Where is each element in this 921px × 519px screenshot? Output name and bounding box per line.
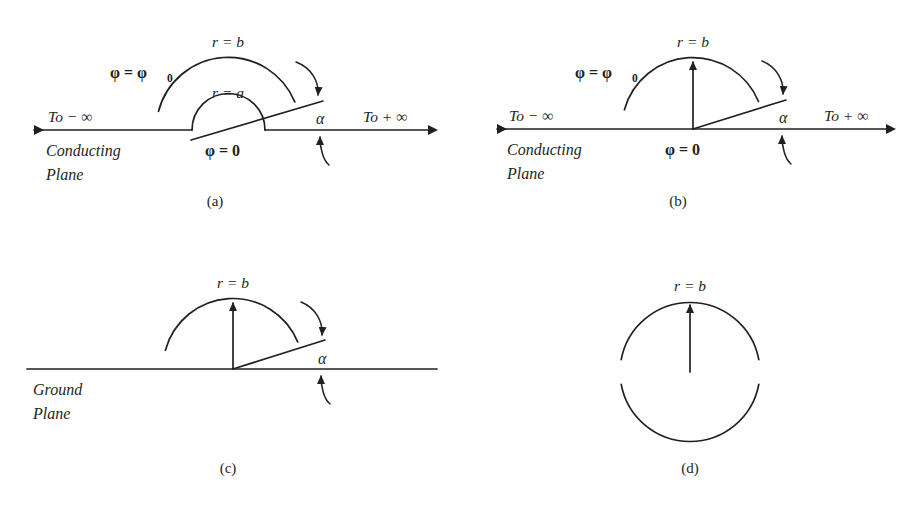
- panel-c-angled-radius: [233, 340, 325, 369]
- panel-b-label-potential-bottom: φ = 0: [665, 141, 700, 159]
- panel-b-caption: (b): [669, 193, 687, 210]
- panel-c-rotation-arrow-lower: [321, 376, 330, 404]
- panel-a-rotation-arrow-upper: [296, 62, 318, 95]
- panel-b-label-potential-top-main: φ = φ: [575, 64, 612, 82]
- panel-a-label-plane-line2: Plane: [45, 166, 83, 183]
- panel-b-rotation-arrow-lower: [782, 136, 791, 164]
- panel-c-caption: (c): [220, 460, 237, 477]
- panel-b-label-left-infinity: To − ∞: [509, 107, 553, 124]
- panel-a-label-angle: α: [316, 110, 325, 127]
- panel-b-rotation-arrow-upper: [762, 61, 783, 94]
- panel-a-label-inner-radius: r = a: [212, 84, 244, 101]
- panel-b-label-outer-radius: r = b: [677, 33, 709, 50]
- panel-b-label-angle: α: [779, 109, 788, 126]
- panel-b-label-plane-line2: Plane: [506, 165, 544, 182]
- panel-a-label-outer-radius: r = b: [212, 33, 244, 50]
- panel-d-lower-arc: [621, 384, 759, 441]
- panel-d-label-outer-radius: r = b: [674, 277, 706, 294]
- panel-b-angled-radius: [693, 100, 786, 129]
- panel-b-label-plane-line1: Conducting: [507, 141, 582, 159]
- panel-d: r = b (d): [621, 277, 759, 477]
- panel-a-label-plane-line1: Conducting: [46, 142, 121, 160]
- figure-svg: r = b r = a φ = φ 0 φ = 0 α To − ∞ To + …: [0, 0, 921, 519]
- panel-a-rotation-arrow-lower: [320, 137, 329, 165]
- panel-a-label-potential-top-subscript: 0: [167, 72, 173, 84]
- panel-a-label-potential-top: φ = φ 0: [110, 64, 173, 84]
- panel-c-label-plane-line1: Ground: [33, 381, 83, 398]
- panel-b-label-potential-top: φ = φ 0: [575, 64, 638, 84]
- panel-a-caption: (a): [207, 193, 224, 210]
- panel-c-label-angle: α: [318, 350, 327, 367]
- panel-c-outer-arc: [165, 299, 297, 351]
- panel-c: r = b α Ground Plane (c): [27, 274, 437, 477]
- figure-root: r = b r = a φ = φ 0 φ = 0 α To − ∞ To + …: [0, 0, 921, 519]
- panel-a-label-potential-bottom: φ = 0: [205, 142, 240, 160]
- panel-d-caption: (d): [681, 460, 699, 477]
- panel-b: r = b φ = φ 0 φ = 0 α To − ∞ To + ∞ Cond…: [497, 33, 886, 210]
- panel-b-outer-arc: [624, 58, 758, 110]
- panel-a-label-left-infinity: To − ∞: [48, 108, 92, 125]
- panel-c-label-plane-line2: Plane: [32, 405, 70, 422]
- panel-b-label-right-infinity: To + ∞: [824, 107, 868, 124]
- panel-c-label-outer-radius: r = b: [217, 274, 249, 291]
- panel-b-label-potential-top-subscript: 0: [632, 72, 638, 84]
- panel-a-label-right-infinity: To + ∞: [363, 108, 407, 125]
- panel-a: r = b r = a φ = φ 0 φ = 0 α To − ∞ To + …: [34, 33, 428, 210]
- panel-a-label-potential-top-main: φ = φ: [110, 64, 147, 82]
- panel-c-rotation-arrow-upper: [301, 302, 322, 335]
